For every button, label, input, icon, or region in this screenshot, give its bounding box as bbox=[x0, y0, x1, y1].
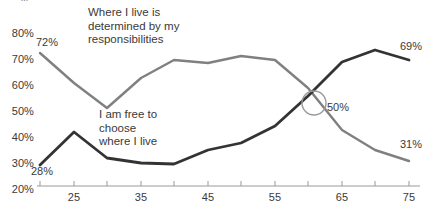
plot-area bbox=[0, 0, 432, 208]
x-axis-ticks bbox=[40, 181, 409, 186]
series-line-free-to-choose bbox=[40, 50, 409, 165]
series-line-responsibilities bbox=[40, 53, 409, 161]
line-chart: % 80% 70% 60% 50% 40% 30% 20% 25 35 45 5… bbox=[0, 0, 432, 208]
